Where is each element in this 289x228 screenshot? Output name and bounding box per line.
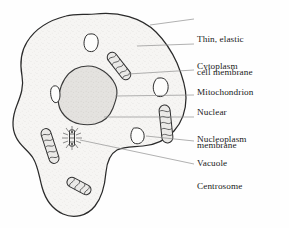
vacuole-2 (153, 78, 168, 97)
vacuole-3 (51, 86, 60, 103)
vacuole-1 (84, 34, 98, 52)
nucleus-shape (58, 66, 117, 125)
leader-cell-membrane (150, 19, 194, 25)
vacuole-4 (131, 128, 144, 144)
label-centrosome: Centrosome (197, 159, 242, 214)
cell-diagram: Thin, elastic cell membrane Cytoplasm Mi… (0, 0, 289, 228)
label-centrosome-line1: Centrosome (197, 181, 242, 192)
